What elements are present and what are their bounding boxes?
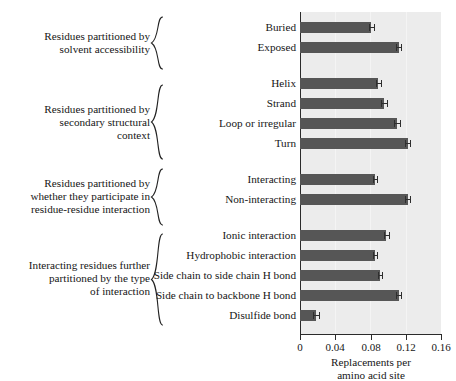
x-axis-title-line2: amino acid site — [300, 369, 442, 381]
category-label: Helix — [40, 77, 296, 89]
bar-row — [300, 22, 441, 33]
x-tick-012 — [406, 335, 407, 340]
bar — [300, 250, 375, 261]
x-tick-label-0: 0 — [288, 341, 312, 354]
error-bar-cap-low — [313, 312, 314, 319]
group-desc-line: Residues partitioned by — [2, 177, 150, 190]
bar-row — [300, 250, 441, 261]
brace-solvent-accessibility — [150, 16, 164, 70]
bar-row — [300, 194, 441, 205]
group-description-secondary-structure: Residues partitioned by secondary struct… — [10, 103, 150, 142]
bar-row — [300, 230, 441, 241]
brace-residue-interaction — [150, 168, 164, 226]
x-tick-004 — [335, 335, 336, 340]
x-axis-title-line1: Replacements per — [300, 356, 442, 369]
error-bar-cap-low — [376, 80, 377, 87]
group-desc-line: context — [10, 129, 150, 142]
bar — [300, 22, 371, 33]
group-desc-line: secondary structural — [10, 116, 150, 129]
bar-row — [300, 310, 441, 321]
group-desc-line: solvent accessibility — [10, 43, 150, 56]
group-desc-line: Interacting residues further — [2, 259, 150, 272]
error-bar-cap-high — [400, 120, 401, 127]
error-bar-cap-high — [374, 24, 375, 31]
brace-secondary-structure — [150, 84, 164, 160]
error-bar-cap-low — [396, 44, 397, 51]
bar — [300, 118, 397, 129]
group-desc-line: Residues partitioned by — [10, 30, 150, 43]
error-bar-cap-high — [381, 80, 382, 87]
gridline-012 — [406, 12, 407, 334]
figure-bar-chart: BuriedExposedHelixStrandLoop or irregula… — [0, 0, 456, 381]
error-bar-cap-low — [384, 232, 385, 239]
group-desc-line: whether they participate in — [2, 190, 150, 203]
bar-row — [300, 174, 441, 185]
error-bar-cap-low — [373, 252, 374, 259]
group-desc-line: Residues partitioned by — [10, 103, 150, 116]
error-bar-cap-low — [405, 140, 406, 147]
x-tick-label-016: 0.16 — [424, 341, 456, 354]
error-bar-cap-high — [410, 140, 411, 147]
bar — [300, 78, 378, 89]
error-bar-cap-high — [377, 176, 378, 183]
category-label: Disulfide bond — [40, 309, 296, 321]
error-bar-cap-high — [401, 292, 402, 299]
group-desc-line: residue-residue interaction — [2, 203, 150, 216]
error-bar-cap-high — [377, 252, 378, 259]
gridline-004 — [335, 12, 336, 334]
bar-row — [300, 98, 441, 109]
bar — [300, 138, 408, 149]
x-tick-016 — [441, 335, 442, 340]
bar-row — [300, 270, 441, 281]
error-bar-cap-low — [405, 196, 406, 203]
error-bar-cap-low — [369, 24, 370, 31]
error-bar-cap-low — [394, 120, 395, 127]
error-bar-cap-low — [381, 100, 382, 107]
x-tick-label-004: 0.04 — [318, 341, 352, 354]
x-tick-008 — [371, 335, 372, 340]
error-bar-cap-high — [387, 100, 388, 107]
bar — [300, 290, 399, 301]
bar — [300, 194, 408, 205]
error-bar-cap-high — [389, 232, 390, 239]
group-desc-line: of interaction — [2, 285, 150, 298]
error-bar-cap-high — [319, 312, 320, 319]
brace-interaction-type — [150, 233, 164, 326]
group-description-solvent-accessibility: Residues partitioned by solvent accessib… — [10, 30, 150, 56]
error-bar-cap-low — [378, 272, 379, 279]
bar — [300, 230, 386, 241]
error-bar-cap-low — [373, 176, 374, 183]
error-bar-cap-high — [410, 196, 411, 203]
bar — [300, 42, 399, 53]
group-description-interaction-type: Interacting residues further partitioned… — [2, 259, 150, 298]
x-axis-title: Replacements per amino acid site — [300, 356, 442, 381]
error-bar-cap-high — [401, 44, 402, 51]
gridline-008 — [370, 12, 371, 334]
group-description-residue-interaction: Residues partitioned by whether they par… — [2, 177, 150, 216]
y-axis-line — [300, 12, 301, 334]
category-label: Ionic interaction — [40, 229, 296, 241]
group-desc-line: partitioned by the type — [2, 272, 150, 285]
bar-row — [300, 138, 441, 149]
x-tick-label-008: 0.08 — [354, 341, 388, 354]
bar — [300, 270, 380, 281]
bar — [300, 174, 375, 185]
bar-row — [300, 78, 441, 89]
error-bar-cap-high — [382, 272, 383, 279]
error-bar-cap-low — [396, 292, 397, 299]
x-tick-0 — [300, 335, 301, 340]
x-tick-label-012: 0.12 — [389, 341, 423, 354]
bar-row — [300, 118, 441, 129]
bar — [300, 98, 384, 109]
bar-row — [300, 42, 441, 53]
bar-row — [300, 290, 441, 301]
